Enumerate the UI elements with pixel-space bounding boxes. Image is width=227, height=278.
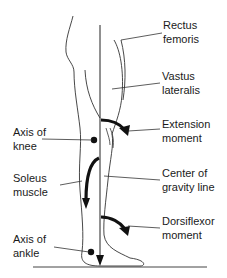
- soleus-arrowhead: [82, 198, 90, 209]
- soleus-arrow: [86, 158, 99, 200]
- cog-arrowhead: [96, 255, 104, 266]
- calf-outline: [79, 128, 100, 266]
- dorsiflexor-moment-arrow: [101, 217, 125, 229]
- label-dorsiflexor-moment: Dorsiflexor moment: [162, 214, 215, 242]
- shin-front-outline: [100, 134, 144, 266]
- leader-rectus-femoris: [121, 33, 162, 40]
- leader-center-of-gravity: [104, 176, 160, 180]
- leader-vastus-lateralis: [112, 83, 160, 89]
- label-rectus-femoris: Rectus femoris: [163, 18, 199, 46]
- label-axis-of-ankle: Axis of ankle: [13, 232, 46, 260]
- label-extension-moment: Extension moment: [162, 117, 210, 145]
- leader-dorsiflexor-moment: [128, 226, 160, 228]
- thigh-front-outline: [112, 40, 123, 134]
- leader-axis-of-ankle: [54, 247, 89, 252]
- leader-extension-moment: [128, 129, 160, 131]
- dorsiflexor-moment-arrowhead: [119, 226, 130, 236]
- label-axis-of-knee: Axis of knee: [13, 125, 46, 153]
- leader-axis-of-knee: [42, 139, 92, 140]
- label-vastus-lateralis: Vastus lateralis: [162, 69, 200, 97]
- leader-soleus-muscle: [60, 181, 82, 185]
- label-center-of-gravity-line: Center of gravity line: [162, 166, 215, 194]
- label-soleus-muscle: Soleus muscle: [13, 171, 48, 199]
- thigh-inner-outline: [85, 70, 100, 118]
- thigh-back-outline: [66, 16, 80, 128]
